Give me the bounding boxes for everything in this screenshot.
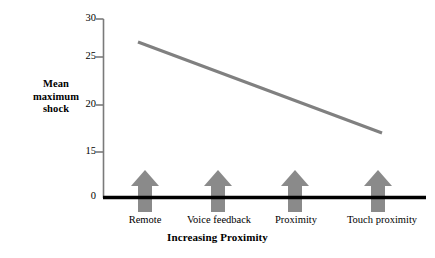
y-tick-label-25: 25: [74, 50, 96, 61]
x-category-label-touch-proximity: Touch proximity: [347, 214, 417, 225]
x-category-label-proximity: Proximity: [275, 214, 317, 225]
data-line-mean-maximum-shock: [138, 42, 382, 133]
category-arrow-markers: [131, 170, 392, 212]
chart-container: 30 25 20 15 0 Mean maximum shock Remote …: [0, 0, 435, 258]
x-category-label-voice-feedback: Voice feedback: [187, 214, 251, 225]
y-tick-label-30: 30: [74, 12, 96, 23]
arrow-marker-remote: [131, 170, 159, 212]
y-axis-title-line-2: maximum: [22, 91, 90, 104]
y-axis-title-line-3: shock: [22, 103, 90, 116]
arrow-marker-voice-feedback: [204, 170, 232, 212]
arrow-marker-touch-proximity: [364, 170, 392, 212]
y-tick-label-15: 15: [74, 145, 96, 156]
arrow-marker-proximity: [281, 170, 309, 212]
x-axis-title: Increasing Proximity: [0, 231, 435, 243]
y-axis-title: Mean maximum shock: [22, 78, 90, 116]
y-axis-title-line-1: Mean: [22, 78, 90, 91]
x-category-label-remote: Remote: [129, 214, 162, 225]
y-tick-label-0: 0: [74, 190, 96, 201]
